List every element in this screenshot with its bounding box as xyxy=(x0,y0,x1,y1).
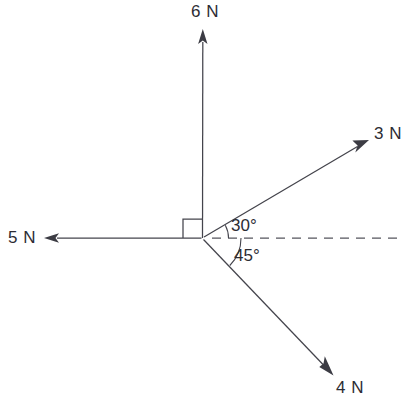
force-label-6n: 6 N xyxy=(191,2,219,22)
force-label-5n: 5 N xyxy=(8,228,36,248)
vector-3n-shaft xyxy=(204,147,358,238)
vector-6n xyxy=(198,29,207,238)
force-label-4n: 4 N xyxy=(336,378,364,398)
force-label-3n: 3 N xyxy=(374,124,402,144)
right-angle-marker-icon xyxy=(183,219,202,238)
force-diagram-canvas: 6 N 3 N 5 N 4 N 30° 45° xyxy=(0,0,414,409)
vector-4n xyxy=(204,240,334,376)
vector-4n-shaft xyxy=(204,240,324,365)
angle-label-30: 30° xyxy=(231,216,257,236)
vector-5n-arrowhead xyxy=(44,233,59,243)
vector-3n-arrowhead xyxy=(352,140,369,153)
force-diagram-svg xyxy=(0,0,414,409)
vector-6n-arrowhead xyxy=(198,29,207,44)
vector-5n xyxy=(44,233,202,243)
vector-4n-arrowhead xyxy=(319,356,333,375)
angle-label-45: 45° xyxy=(234,246,260,266)
angle-arc-30-icon xyxy=(225,225,228,238)
vector-3n xyxy=(204,140,369,237)
